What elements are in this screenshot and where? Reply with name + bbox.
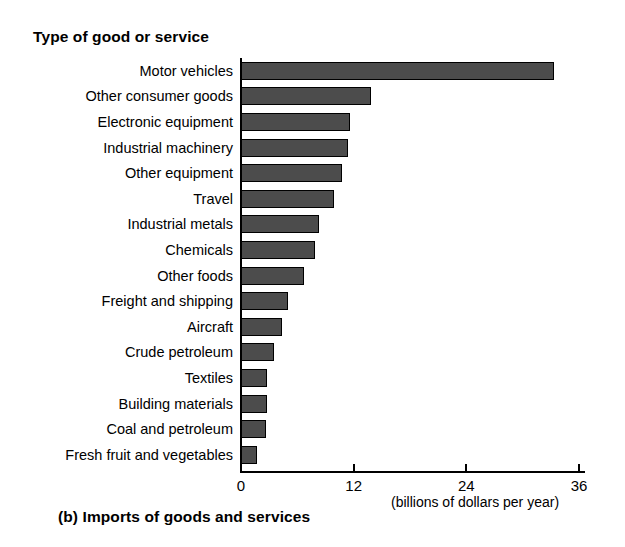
plot-area: Motor vehiclesOther consumer goodsElectr… — [0, 58, 625, 473]
chart-row: Other equipment — [0, 160, 625, 186]
bar — [241, 446, 257, 464]
chart-row: Other consumer goods — [0, 84, 625, 110]
bar — [241, 318, 282, 336]
x-axis-tick-label: 0 — [237, 477, 245, 494]
category-label: Other foods — [157, 268, 233, 283]
chart-row: Textiles — [0, 365, 625, 391]
bar — [241, 215, 319, 233]
x-axis-tick-label: 12 — [345, 477, 362, 494]
category-label: Other consumer goods — [86, 89, 234, 104]
chart-row: Aircraft — [0, 314, 625, 340]
x-axis-line — [240, 471, 585, 473]
x-axis-tick-label: 36 — [571, 477, 588, 494]
category-label: Other equipment — [125, 166, 233, 181]
category-label: Chemicals — [165, 243, 233, 258]
category-label: Fresh fruit and vegetables — [65, 448, 233, 463]
chart-row: Electronic equipment — [0, 109, 625, 135]
x-axis-tick — [578, 464, 580, 473]
bar — [241, 369, 267, 387]
category-label: Industrial metals — [127, 217, 233, 232]
chart-row: Crude petroleum — [0, 340, 625, 366]
chart-row: Industrial machinery — [0, 135, 625, 161]
category-label: Electronic equipment — [98, 115, 233, 130]
chart-row: Chemicals — [0, 237, 625, 263]
bar — [241, 164, 342, 182]
bar — [241, 241, 315, 259]
x-axis-unit-label: (billions of dollars per year) — [391, 494, 559, 510]
category-label: Building materials — [119, 396, 233, 411]
category-label: Freight and shipping — [102, 294, 233, 309]
chart-row: Motor vehicles — [0, 58, 625, 84]
category-label: Industrial machinery — [103, 140, 233, 155]
bar — [241, 139, 348, 157]
imports-bar-chart: Type of good or service Motor vehiclesOt… — [0, 0, 625, 547]
bar — [241, 395, 267, 413]
chart-axis-title: Type of good or service — [33, 28, 209, 46]
bar — [241, 420, 266, 438]
bar — [241, 343, 274, 361]
bar — [241, 87, 371, 105]
chart-row: Other foods — [0, 263, 625, 289]
x-axis-tick — [240, 464, 242, 473]
x-axis-tick — [465, 464, 467, 473]
chart-row: Building materials — [0, 391, 625, 417]
x-axis-tick-label: 24 — [458, 477, 475, 494]
chart-row: Travel — [0, 186, 625, 212]
panel-caption: (b) Imports of goods and services — [58, 508, 310, 526]
chart-row: Industrial metals — [0, 212, 625, 238]
category-label: Textiles — [185, 371, 233, 386]
bar — [241, 267, 304, 285]
bar — [241, 190, 334, 208]
category-label: Coal and petroleum — [106, 422, 233, 437]
chart-row: Coal and petroleum — [0, 416, 625, 442]
bar — [241, 113, 350, 131]
bar — [241, 292, 288, 310]
category-label: Crude petroleum — [125, 345, 233, 360]
category-label: Aircraft — [187, 320, 233, 335]
chart-row: Fresh fruit and vegetables — [0, 442, 625, 468]
category-label: Motor vehicles — [140, 64, 233, 79]
x-axis-tick — [353, 464, 355, 473]
bar — [241, 62, 554, 80]
category-label: Travel — [193, 192, 233, 207]
chart-row: Freight and shipping — [0, 288, 625, 314]
